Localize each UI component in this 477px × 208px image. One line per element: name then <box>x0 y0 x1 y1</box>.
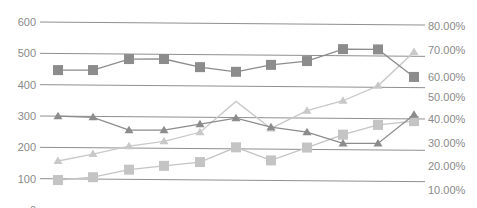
triangle-marker <box>374 139 383 147</box>
square-marker <box>88 65 98 75</box>
left-axis-tick: 400 <box>0 79 36 91</box>
square-marker <box>266 155 276 165</box>
square-marker <box>373 120 383 130</box>
square-marker <box>124 165 134 175</box>
right-axis-tick: 60.00% <box>428 71 465 83</box>
square-marker <box>231 142 241 152</box>
right-axis-tick: 80.00% <box>428 20 465 32</box>
square-marker <box>53 175 63 185</box>
gridline <box>40 53 425 56</box>
left-axis-tick: 0 <box>0 204 36 208</box>
square-marker <box>409 72 419 82</box>
left-axis-tick: 200 <box>0 141 36 153</box>
square-marker <box>159 161 169 171</box>
left-axis-tick: 300 <box>0 110 36 122</box>
square-marker <box>302 143 312 153</box>
left-axis-tick: 100 <box>0 173 36 185</box>
right-axis-tick: 40.00% <box>428 113 465 125</box>
gridline <box>40 85 425 88</box>
square-marker <box>159 54 169 64</box>
left-axis-tick: 500 <box>0 47 36 59</box>
triangle-marker <box>410 47 419 55</box>
gridline <box>40 22 425 25</box>
triangle-marker <box>54 112 63 120</box>
square-marker <box>124 54 134 64</box>
square-marker <box>338 130 348 140</box>
series-layer <box>53 44 419 185</box>
square-marker <box>302 56 312 66</box>
square-marker <box>195 62 205 72</box>
left-axis-tick: 600 <box>0 16 36 28</box>
gridlines <box>40 22 425 182</box>
right-axis-tick: 10.00% <box>428 184 465 196</box>
square-marker <box>53 65 63 75</box>
square-marker <box>373 44 383 54</box>
right-axis-tick: 20.00% <box>428 160 465 172</box>
square-marker <box>231 67 241 77</box>
series-1 <box>53 44 419 82</box>
square-marker <box>88 172 98 182</box>
square-marker <box>338 44 348 54</box>
right-axis-tick: 50.00% <box>428 91 465 103</box>
square-marker <box>266 60 276 70</box>
square-marker <box>195 157 205 167</box>
right-axis-tick: 30.00% <box>428 137 465 149</box>
combo-line-chart <box>0 0 477 208</box>
right-axis-tick: 70.00% <box>428 44 465 56</box>
triangle-marker <box>410 110 419 118</box>
